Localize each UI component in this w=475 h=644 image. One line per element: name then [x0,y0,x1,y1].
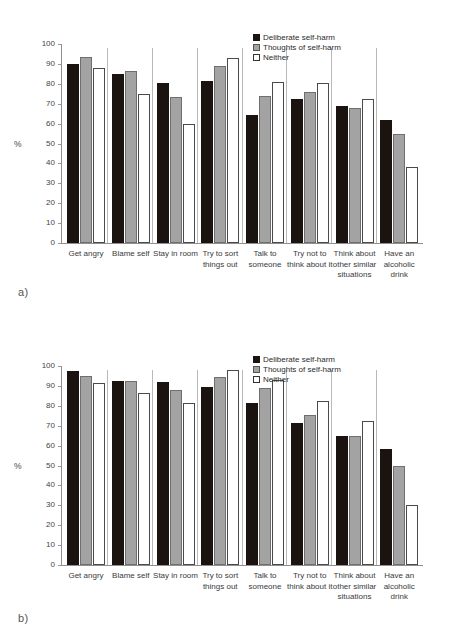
group-separator [197,48,198,243]
legend-label: Neither [263,53,289,62]
y-axis-tick-mark [58,545,61,546]
y-axis-tick-label: 0 [29,561,55,569]
group-separator [152,370,153,565]
group-separator [376,370,377,565]
group-separator [242,48,243,243]
group-separator [242,370,243,565]
y-axis-line [61,366,62,566]
panel-b-tag: b) [18,612,29,624]
y-axis-tick-mark [58,366,61,367]
bar [336,106,348,243]
y-axis-tick-mark [58,124,61,125]
y-axis-tick-mark [58,163,61,164]
y-axis-tick-label: 40 [29,159,55,167]
y-axis-title: % [14,139,22,149]
y-axis-tick-mark [58,243,61,244]
y-axis-tick-mark [58,104,61,105]
y-axis-title: % [14,461,22,471]
plot-area-b: 1009080706050403020100%Get angryBlame se… [0,322,475,644]
bar [246,115,258,243]
y-axis-tick-mark [58,84,61,85]
y-axis-tick-label: 10 [29,541,55,549]
y-axis-tick-label: 20 [29,521,55,529]
group-separator [286,370,287,565]
bar [80,57,92,243]
bar [227,58,239,243]
y-axis-tick-mark [58,525,61,526]
y-axis-tick-label: 20 [29,199,55,207]
x-axis-line [61,565,423,566]
y-axis-tick-mark [58,406,61,407]
bar [112,381,124,565]
legend-item[interactable]: Deliberate self-harm [253,33,341,42]
group-separator [197,370,198,565]
chart-legend: Deliberate self-harmThoughts of self-har… [253,33,341,63]
bar [227,370,239,565]
legend-item[interactable]: Thoughts of self-harm [253,43,341,52]
bar [183,124,195,243]
bar [138,94,150,243]
y-axis-tick-label: 30 [29,179,55,187]
y-axis-tick-label: 90 [29,60,55,68]
y-axis-tick-label: 60 [29,442,55,450]
y-axis-tick-mark [58,223,61,224]
bar [380,120,392,243]
chart-legend: Deliberate self-harmThoughts of self-har… [253,355,341,385]
legend-swatch-icon [253,356,260,363]
bar [291,423,303,565]
legend-label: Deliberate self-harm [263,33,335,42]
legend-swatch-icon [253,54,260,61]
panel-a-tag: a) [18,286,29,298]
y-axis-tick-label: 100 [29,40,55,48]
y-axis-tick-mark [58,446,61,447]
bar [183,403,195,565]
y-axis-tick-mark [58,64,61,65]
y-axis-tick-label: 70 [29,100,55,108]
legend-swatch-icon [253,34,260,41]
y-axis-line [61,44,62,244]
bar [349,108,361,243]
bar [259,96,271,243]
panel-a: 1009080706050403020100%Get angryBlame se… [0,0,475,322]
legend-item[interactable]: Deliberate self-harm [253,355,341,364]
y-axis-tick-label: 10 [29,219,55,227]
y-axis-tick-mark [58,485,61,486]
legend-label: Thoughts of self-harm [263,365,341,374]
y-axis-tick-label: 50 [29,140,55,148]
legend-item[interactable]: Neither [253,53,341,62]
bar [304,415,316,565]
y-axis-tick-mark [58,466,61,467]
legend-swatch-icon [253,366,260,373]
group-separator [286,48,287,243]
bar [246,403,258,565]
y-axis-tick-label: 60 [29,120,55,128]
bar [170,97,182,243]
y-axis-tick-mark [58,183,61,184]
legend-label: Deliberate self-harm [263,355,335,364]
x-axis-category-label: Have analcoholicdrink [365,249,433,281]
x-axis-line [61,243,423,244]
bar [125,71,137,243]
bar [170,390,182,565]
legend-item[interactable]: Thoughts of self-harm [253,365,341,374]
panel-b: 1009080706050403020100%Get angryBlame se… [0,322,475,644]
bar [138,393,150,565]
y-axis-tick-mark [58,144,61,145]
bar [304,92,316,243]
bar [259,388,271,565]
bar [93,68,105,243]
y-axis-tick-label: 50 [29,462,55,470]
bar [406,167,418,243]
y-axis-tick-label: 70 [29,422,55,430]
y-axis-tick-mark [58,44,61,45]
y-axis-tick-label: 40 [29,481,55,489]
bar [157,83,169,243]
y-axis-tick-label: 100 [29,362,55,370]
group-separator [107,48,108,243]
legend-item[interactable]: Neither [253,375,341,384]
bar [112,74,124,243]
group-separator [107,370,108,565]
bar [362,421,374,565]
bar [214,377,226,565]
group-separator [331,48,332,243]
